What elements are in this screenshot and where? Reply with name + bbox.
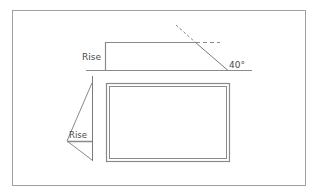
rise-label-side: Rise	[69, 130, 87, 140]
slope-line	[195, 42, 228, 71]
rectangle-inner-border	[110, 87, 227, 159]
side-triangle-diagram: Rise	[67, 76, 93, 161]
slope-dashed-extension	[176, 25, 195, 42]
rise-label-top: Rise	[82, 52, 101, 62]
side-lower-slope	[67, 141, 92, 160]
outer-frame	[13, 11, 306, 186]
angle-label: 40°	[229, 60, 245, 70]
rectangle-outer-border	[107, 84, 230, 162]
top-elevation-diagram: Rise 40°	[82, 25, 252, 71]
diagram-canvas: Rise 40° Rise	[0, 0, 314, 192]
double-border-rectangle	[107, 84, 230, 162]
